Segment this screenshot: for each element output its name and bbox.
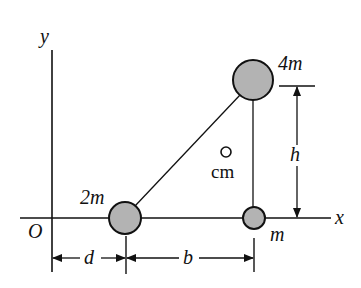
mass-m-circle (243, 207, 265, 229)
x-axis-label: x (334, 206, 344, 228)
h-label: h (290, 143, 300, 165)
mass-4m-label: 4m (278, 52, 302, 74)
mass-2m-label: 2m (80, 186, 104, 208)
y-axis-label: y (38, 25, 49, 48)
mass-m-label: m (270, 223, 284, 245)
mass-4m-circle (233, 60, 273, 100)
b-label: b (183, 246, 193, 268)
rod-2m-4m (135, 95, 240, 206)
center-of-mass-marker (221, 147, 231, 157)
mass-2m-circle (109, 202, 141, 234)
d-label: d (84, 246, 95, 268)
diagram-canvas: y x O 2m 4m m cm h d b (0, 0, 361, 288)
mass-diagram: y x O 2m 4m m cm h d b (0, 0, 361, 288)
center-of-mass-label: cm (211, 161, 234, 182)
origin-label: O (28, 220, 42, 242)
